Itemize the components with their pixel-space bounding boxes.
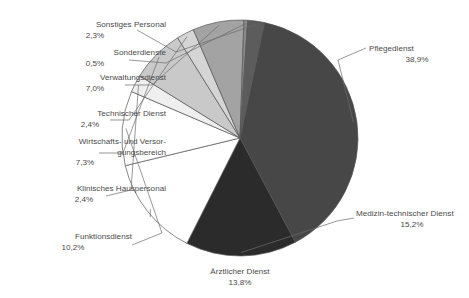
label-wirtschafts-versorgungsbereich-name-line1: Wirtschafts- und Versor- xyxy=(4,137,166,148)
label-aerztlicher-dienst-name: Ärztlicher Dienst xyxy=(174,267,306,278)
label-pflegedienst-name: Pflegedienst xyxy=(369,44,465,55)
label-klinisches-hauspersonal-name: Klinisches Hauspersonal xyxy=(2,184,166,195)
label-klinisches-hauspersonal-value: 2,4% xyxy=(2,195,166,206)
label-pflegedienst-value: 38,9% xyxy=(369,55,465,66)
label-aerztlicher-dienst-value: 13,8% xyxy=(174,278,306,289)
label-wirtschafts-versorgungsbereich-value: 7,3% xyxy=(4,158,166,169)
label-medizin-technischer-dienst-value: 15,2% xyxy=(356,220,468,231)
label-verwaltungsdienst-name: Verwaltungsdienst xyxy=(24,73,166,84)
label-klinisches-hauspersonal: Klinisches Hauspersonal 2,4% xyxy=(2,184,166,205)
label-verwaltungsdienst-value: 7,0% xyxy=(24,84,166,95)
label-sonderdienste-value: 0,5% xyxy=(24,59,166,70)
label-medizin-technischer-dienst-name: Medizin-technischer Dienst xyxy=(356,209,468,220)
label-verwaltungsdienst: Verwaltungsdienst 7,0% xyxy=(24,73,166,94)
label-technischer-dienst: Technischer Dienst 2,4% xyxy=(14,109,166,130)
label-funktionsdienst-value: 10,2% xyxy=(14,243,132,254)
pie-chart-figure: Sonstiges Personal 2,3% Sonderdienste 0,… xyxy=(0,0,469,298)
label-aerztlicher-dienst: Ärztlicher Dienst 13,8% xyxy=(174,267,306,288)
label-sonderdienste-name: Sonderdienste xyxy=(24,48,166,59)
label-sonstiges-personal: Sonstiges Personal 2,3% xyxy=(24,20,166,41)
label-wirtschafts-versorgungsbereich-name-line2: gungsbereich xyxy=(4,148,166,159)
label-funktionsdienst: Funktionsdienst 10,2% xyxy=(14,232,132,253)
label-sonstiges-personal-name: Sonstiges Personal xyxy=(24,20,166,31)
label-sonderdienste: Sonderdienste 0,5% xyxy=(24,48,166,69)
label-medizin-technischer-dienst: Medizin-technischer Dienst 15,2% xyxy=(356,209,468,230)
label-technischer-dienst-value: 2,4% xyxy=(14,120,166,131)
label-technischer-dienst-name: Technischer Dienst xyxy=(14,109,166,120)
label-funktionsdienst-name: Funktionsdienst xyxy=(14,232,132,243)
label-wirtschafts-versorgungsbereich: Wirtschafts- und Versor- gungsbereich 7,… xyxy=(4,137,166,169)
label-sonstiges-personal-value: 2,3% xyxy=(24,31,166,42)
label-pflegedienst: Pflegedienst 38,9% xyxy=(369,44,465,65)
